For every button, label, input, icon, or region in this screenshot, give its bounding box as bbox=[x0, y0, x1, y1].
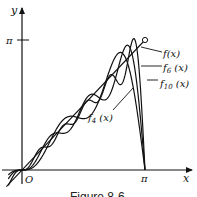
y-axis-label: y bbox=[10, 4, 18, 17]
curve-f4x bbox=[8, 52, 145, 174]
open-endpoint-marker bbox=[142, 37, 147, 42]
x-tick-label-pi: π bbox=[140, 173, 148, 184]
plot-curves bbox=[6, 39, 145, 187]
figure-caption: Figure 8-6 bbox=[70, 190, 125, 197]
label-f4: f4 (x) bbox=[87, 112, 113, 125]
x-axis-label: x bbox=[183, 172, 190, 185]
label-f6: f6 (x) bbox=[162, 62, 188, 75]
label-f10: f10 (x) bbox=[159, 78, 189, 91]
leader-f4 bbox=[113, 88, 133, 110]
label-f: f(x) bbox=[162, 48, 180, 59]
origin-label: O bbox=[25, 174, 33, 185]
y-tick-label-pi: π bbox=[5, 35, 13, 46]
leader-fx bbox=[141, 47, 162, 52]
curve-fx bbox=[6, 40, 145, 187]
figure-canvas: y x O π π f(x) f6 (x) f10 (x) f4 (x) Fig… bbox=[0, 0, 197, 197]
